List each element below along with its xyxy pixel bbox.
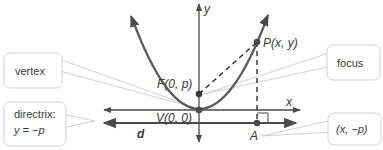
point-p-label: P(x, y) xyxy=(263,37,298,49)
callout-vertex-text: vertex xyxy=(15,65,45,79)
a-point xyxy=(254,120,261,127)
directrix-d-label: d xyxy=(137,128,144,140)
callout-a-coord-text: (x, −p) xyxy=(336,123,367,137)
callout-directrix-text-2: y = −p xyxy=(14,124,45,138)
y-axis-label: y xyxy=(204,3,210,15)
p-point xyxy=(254,39,261,46)
focus-label: F(0, p) xyxy=(157,78,192,90)
vertex-point xyxy=(196,107,203,114)
callout-directrix-text-1: directrix: xyxy=(14,108,56,122)
x-axis-label: x xyxy=(286,96,292,108)
vertex-label: V(0, 0) xyxy=(156,112,192,124)
parabola-diagram xyxy=(0,0,383,150)
focus-point xyxy=(196,91,203,98)
point-a-label: A xyxy=(250,130,258,142)
callout-focus-text: focus xyxy=(337,57,363,71)
